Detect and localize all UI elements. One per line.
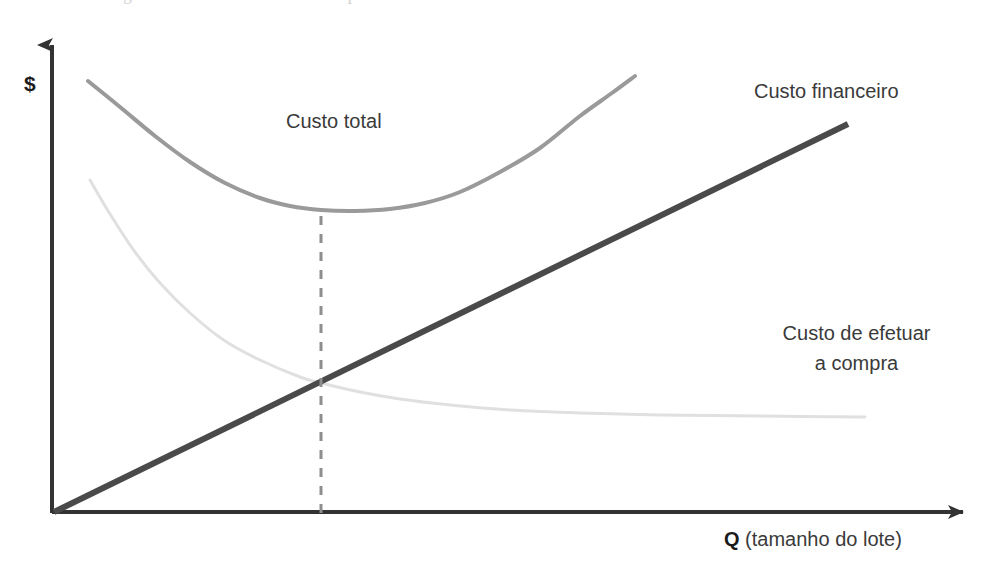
ordering-cost-label: Custo de efetuar a compra <box>749 318 964 378</box>
x-axis-label: Q (tamanho do lote) <box>724 528 902 551</box>
figure-container: Figura 4.4 Custo mínimo de compra $ Cust… <box>0 0 998 582</box>
ordering-cost-label-line1: Custo de efetuar <box>749 318 964 348</box>
ordering-cost-label-line2: a compra <box>749 348 964 378</box>
ordering-cost-curve <box>90 180 865 417</box>
total-cost-curve <box>88 76 635 211</box>
y-axis-label: $ <box>24 72 36 96</box>
x-axis-label-text: (tamanho do lote) <box>740 528 902 550</box>
financial-cost-label: Custo financeiro <box>754 80 899 103</box>
financial-cost-line <box>54 124 848 512</box>
x-axis-label-symbol: Q <box>724 528 740 550</box>
total-cost-label: Custo total <box>286 110 382 133</box>
